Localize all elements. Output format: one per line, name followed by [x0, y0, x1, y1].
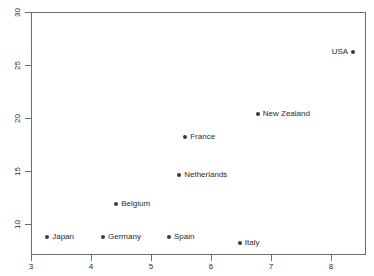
scatter-chart: 1015202530 345678 USANew ZealandFranceNe… — [0, 0, 374, 276]
y-axis-tick-label-text: 25 — [13, 61, 22, 70]
data-point-label: Italy — [245, 238, 260, 247]
data-point-label: Japan — [52, 232, 74, 241]
x-axis-tick-mark — [271, 255, 272, 261]
y-axis-tick-label-text: 10 — [13, 220, 22, 229]
x-axis-tick-label: 4 — [81, 262, 101, 271]
y-axis-tick-label: 20 — [0, 113, 22, 123]
y-axis-tick-mark — [25, 12, 31, 13]
x-axis-tick-mark — [31, 255, 32, 261]
data-point-label: Belgium — [121, 199, 150, 208]
data-point[interactable] — [256, 112, 260, 116]
data-point[interactable] — [167, 235, 171, 239]
y-axis-tick-mark — [25, 118, 31, 119]
y-axis-tick-label: 10 — [0, 219, 22, 229]
data-point[interactable] — [45, 235, 49, 239]
x-axis-tick-label: 3 — [21, 262, 41, 271]
x-axis-tick-label: 8 — [321, 262, 341, 271]
y-axis-tick-label: 15 — [0, 166, 22, 176]
data-point-label: Netherlands — [184, 170, 227, 179]
data-point-label: USA — [332, 47, 348, 56]
data-point[interactable] — [101, 235, 105, 239]
y-axis-tick-mark — [25, 224, 31, 225]
y-axis-tick-mark — [25, 65, 31, 66]
data-point-label: France — [190, 132, 215, 141]
y-axis-tick-label: 25 — [0, 60, 22, 70]
data-point-label: Germany — [108, 232, 141, 241]
y-axis-tick-label-text: 20 — [13, 114, 22, 123]
y-axis-tick-label: 30 — [0, 7, 22, 17]
data-point-label: Spain — [174, 232, 194, 241]
x-axis-tick-mark — [91, 255, 92, 261]
x-axis-tick-mark — [151, 255, 152, 261]
y-axis-tick-mark — [25, 171, 31, 172]
x-axis-tick-label: 5 — [141, 262, 161, 271]
data-point[interactable] — [238, 241, 242, 245]
x-axis-tick-mark — [211, 255, 212, 261]
x-axis-tick-label: 6 — [201, 262, 221, 271]
y-axis-tick-label-text: 15 — [13, 167, 22, 176]
x-axis-tick-mark — [331, 255, 332, 261]
y-axis-tick-label-text: 30 — [13, 8, 22, 17]
x-axis-tick-label: 7 — [261, 262, 281, 271]
data-point-label: New Zealand — [263, 109, 310, 118]
